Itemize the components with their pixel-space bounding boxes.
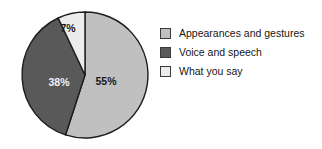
slice-label-55: 55% xyxy=(95,75,117,87)
slice-label-38: 38% xyxy=(48,76,70,88)
chart-legend: Appearances and gestures Voice and speec… xyxy=(160,24,320,81)
legend-swatch-what-you-say xyxy=(160,66,171,77)
pie-chart-svg: 55%38%7% xyxy=(18,6,154,146)
slice-label-7: 7% xyxy=(60,22,76,34)
legend-swatch-appearances-and-gestures xyxy=(160,28,171,39)
legend-label-appearances-and-gestures: Appearances and gestures xyxy=(179,27,305,39)
legend-item-appearances-and-gestures[interactable]: Appearances and gestures xyxy=(160,24,320,42)
pie-chart-plot-area: 55%38%7% xyxy=(18,6,154,146)
legend-item-what-you-say[interactable]: What you say xyxy=(160,62,320,80)
pie-slice-group xyxy=(22,12,148,138)
legend-label-what-you-say: What you say xyxy=(179,65,243,77)
legend-label-voice-and-speech: Voice and speech xyxy=(179,46,262,58)
pie-chart-figure: 55%38%7% Appearances and gestures Voice … xyxy=(0,0,322,149)
legend-swatch-voice-and-speech xyxy=(160,47,171,58)
legend-item-voice-and-speech[interactable]: Voice and speech xyxy=(160,43,320,61)
